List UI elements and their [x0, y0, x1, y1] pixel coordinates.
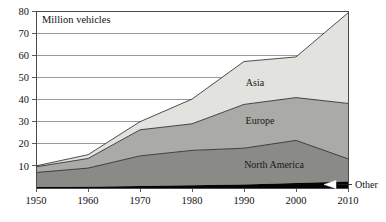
ytick-label-30: 30: [19, 116, 30, 127]
ytick-label-80: 80: [19, 6, 30, 17]
ytick-label-60: 60: [19, 50, 30, 61]
ytick-label-40: 40: [19, 94, 30, 105]
stacked-area-chart: 80 70 60 50 40 30 20 10 1950 1960 1970 1…: [0, 0, 386, 222]
xtick-label-2000: 2000: [286, 195, 307, 206]
y-axis: 80 70 60 50 40 30 20 10: [19, 6, 37, 172]
chart-axis-title: Million vehicles: [42, 14, 111, 25]
xtick-label-1960: 1960: [78, 195, 99, 206]
xtick-label-1980: 1980: [182, 195, 203, 206]
series-label-north-america: North America: [244, 159, 304, 170]
xtick-label-1990: 1990: [234, 195, 255, 206]
x-axis: 1950 1960 1970 1980 1990 2000 2010: [26, 188, 359, 206]
ytick-label-70: 70: [19, 28, 30, 39]
ytick-label-10: 10: [19, 161, 30, 172]
ytick-label-20: 20: [19, 138, 30, 149]
series-label-asia: Asia: [246, 77, 265, 88]
xtick-label-1950: 1950: [26, 195, 47, 206]
xtick-label-1970: 1970: [130, 195, 151, 206]
series-label-other: Other: [355, 179, 378, 190]
ytick-label-50: 50: [19, 72, 30, 83]
chart-container: 80 70 60 50 40 30 20 10 1950 1960 1970 1…: [0, 0, 386, 222]
xtick-label-2010: 2010: [338, 195, 359, 206]
series-label-europe: Europe: [246, 115, 275, 126]
